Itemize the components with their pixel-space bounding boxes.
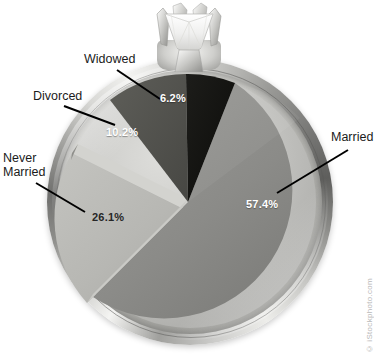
- callout-label-never-married-line2: Married: [3, 165, 45, 179]
- diamond-ring-photo: [0, 0, 376, 357]
- slice-value-married: 57.4%: [246, 198, 278, 210]
- watermark-istockphoto: © iStockphoto.com: [365, 278, 374, 353]
- pie-svg: [0, 0, 376, 357]
- slice-value-widowed: 6.2%: [160, 92, 186, 104]
- slice-value-divorced: 10.2%: [106, 126, 138, 138]
- pie-chart-figure: 6.2% 10.2% 26.1% 57.4% Widowed Divorced …: [0, 0, 376, 357]
- callout-label-never-married-line1: Never: [3, 151, 45, 165]
- leader-line-divorced: [64, 106, 115, 125]
- callout-label-divorced: Divorced: [33, 89, 82, 103]
- slice-value-never-married: 26.1%: [92, 211, 124, 223]
- callout-label-married: Married: [331, 130, 373, 144]
- callout-label-widowed: Widowed: [84, 52, 135, 66]
- callout-label-never-married: Never Married: [3, 151, 45, 179]
